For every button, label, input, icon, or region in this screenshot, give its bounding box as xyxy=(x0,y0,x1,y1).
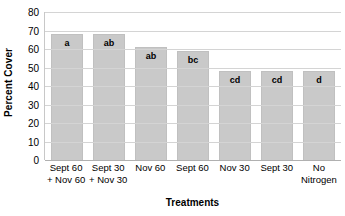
x-axis-tick-label: NoNitrogen xyxy=(298,162,340,196)
y-axis-tick-label: 70 xyxy=(28,25,39,36)
gridline xyxy=(45,68,341,69)
y-axis-tick-label: 0 xyxy=(33,155,39,166)
gridline xyxy=(45,142,341,143)
gridline xyxy=(45,31,341,32)
y-axis-tick-label: 40 xyxy=(28,81,39,92)
bar[interactable]: d xyxy=(303,71,335,160)
x-axis-title: Treatments xyxy=(44,197,341,208)
y-axis-tick-label: 50 xyxy=(28,62,39,73)
y-axis-tick-label: 60 xyxy=(28,44,39,55)
x-axis-tick-labels: Sept 60+ Nov 60Sept 30+ Nov 30Nov 60Sept… xyxy=(44,162,341,196)
x-axis-tick-label: Sept 60 xyxy=(171,162,213,196)
plot-area: aababbccdcdd xyxy=(44,12,341,160)
x-axis-tick-label: Nov 30 xyxy=(214,162,256,196)
gridline xyxy=(45,105,341,106)
gridline xyxy=(45,86,341,87)
bar-significance-letter: a xyxy=(52,38,82,48)
x-axis-tick-label: Sept 30 xyxy=(256,162,298,196)
y-axis-tick-label: 80 xyxy=(28,7,39,18)
bar-significance-letter: cd xyxy=(262,75,292,85)
x-axis-tick-label: Sept 60+ Nov 60 xyxy=(45,162,87,196)
bar-significance-letter: ab xyxy=(94,38,124,48)
gridline xyxy=(45,49,341,50)
x-axis-tick-label: Sept 30+ Nov 30 xyxy=(87,162,129,196)
bar-significance-letter: ab xyxy=(136,51,166,61)
y-axis-tick-label: 20 xyxy=(28,118,39,129)
bar-significance-letter: d xyxy=(304,75,334,85)
y-axis-tick-label: 30 xyxy=(28,99,39,110)
gridline xyxy=(45,123,341,124)
bar-significance-letter: cd xyxy=(220,75,250,85)
gridline xyxy=(45,160,341,161)
bar[interactable]: cd xyxy=(261,71,293,160)
bar-chart: Percent Cover 80706050403020100 aababbcc… xyxy=(0,0,345,216)
y-axis-title-text: Percent Cover xyxy=(4,48,15,117)
bar[interactable]: cd xyxy=(219,71,251,160)
y-axis-title: Percent Cover xyxy=(0,0,18,165)
bar-significance-letter: bc xyxy=(178,55,208,65)
gridline xyxy=(45,12,341,13)
x-axis-tick-label: Nov 60 xyxy=(129,162,171,196)
y-axis-tick-label: 10 xyxy=(28,136,39,147)
y-axis-tick-labels: 80706050403020100 xyxy=(18,12,42,160)
